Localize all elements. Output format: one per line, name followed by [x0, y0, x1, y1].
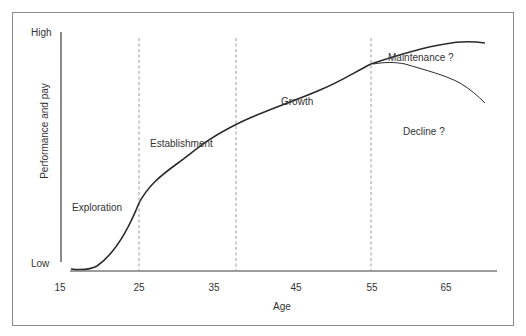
x-tick-25: 25: [133, 283, 144, 293]
x-tick-15: 15: [54, 283, 65, 293]
stage-label-growth: Growth: [281, 97, 313, 107]
decline-curve: [373, 63, 485, 104]
stage-label-exploration: Exploration: [72, 203, 122, 213]
x-tick-55: 55: [366, 283, 377, 293]
x-axis-title: Age: [273, 302, 291, 312]
stage-label-maintenance: Maintenance ?: [388, 53, 454, 63]
y-high-label: High: [31, 28, 52, 38]
y-low-label: Low: [31, 259, 49, 269]
x-tick-45: 45: [290, 283, 301, 293]
stage-label-decline: Decline ?: [403, 127, 445, 137]
stage-label-establishment: Establishment: [150, 139, 213, 149]
y-axis-title: Performance and pay: [40, 81, 50, 181]
x-tick-35: 35: [208, 283, 219, 293]
career-curve: [71, 64, 371, 270]
x-tick-65: 65: [440, 283, 451, 293]
